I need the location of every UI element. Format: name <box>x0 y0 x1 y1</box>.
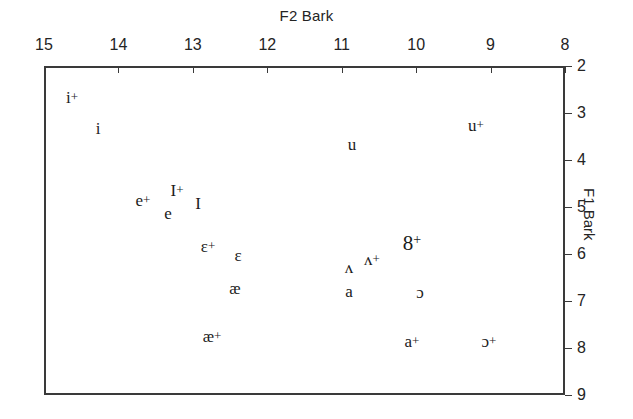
vowel-plus-marker: + <box>489 333 496 348</box>
vowel-point: a <box>345 283 353 300</box>
vowel-point: ɛ <box>234 247 241 264</box>
vowel-symbol: ɔ <box>416 283 424 302</box>
y-tick <box>565 395 572 396</box>
y-tick-label: 3 <box>577 103 586 123</box>
y-tick-label: 6 <box>577 244 586 264</box>
vowel-plus-marker: + <box>143 192 150 207</box>
vowel-point: i+ <box>66 89 78 106</box>
vowel-point: e <box>164 205 172 222</box>
x-tick-label: 14 <box>98 36 138 54</box>
y-tick <box>565 254 572 255</box>
vowel-symbol: ɛ <box>234 246 241 265</box>
y-axis-title: F1 Bark <box>581 188 598 241</box>
y-tick <box>565 207 572 208</box>
vowel-point: a+ <box>405 333 420 350</box>
vowel-point: ɔ <box>416 284 424 301</box>
x-tick-label: 10 <box>396 36 436 54</box>
x-tick-label: 12 <box>247 36 287 54</box>
x-tick-label: 8 <box>545 36 585 54</box>
vowel-symbol: ʌ <box>345 258 354 277</box>
vowel-symbol: æ <box>203 327 214 346</box>
vowel-symbol: e <box>164 204 172 223</box>
vowel-symbol: u <box>468 116 477 135</box>
x-tick <box>342 66 343 73</box>
vowel-point: ɛ+ <box>201 238 215 255</box>
y-tick-label: 7 <box>577 291 586 311</box>
vowel-plus-marker: + <box>413 232 421 247</box>
vowel-point: i <box>96 120 101 137</box>
y-axis-title-text: F1 Bark <box>581 188 598 241</box>
vowel-point: æ+ <box>203 328 222 345</box>
vowel-symbol: e <box>136 191 144 210</box>
chart-title: F2 Bark <box>0 7 633 24</box>
chart-title-text: F2 Bark <box>280 7 334 24</box>
vowel-symbol: æ <box>229 279 240 298</box>
vowel-symbol: ɔ <box>482 332 490 351</box>
y-tick-label: 9 <box>577 385 586 405</box>
vowel-symbol: i <box>96 119 101 138</box>
x-tick-label: 9 <box>471 36 511 54</box>
vowel-point: æ <box>229 280 240 297</box>
x-tick <box>565 66 566 73</box>
y-tick-label: 2 <box>577 56 586 76</box>
vowel-symbol: a <box>405 332 413 351</box>
vowel-plus-marker: + <box>71 89 78 104</box>
y-tick <box>565 160 572 161</box>
vowel-point: ʌ <box>345 259 354 276</box>
y-tick <box>565 66 572 67</box>
vowel-plus-marker: + <box>208 238 215 253</box>
x-tick <box>118 66 119 73</box>
vowel-symbol: 8 <box>403 231 414 255</box>
vowel-plus-marker: + <box>176 182 183 197</box>
x-tick-label: 15 <box>24 36 64 54</box>
y-tick-label: 4 <box>577 150 586 170</box>
y-tick <box>565 113 572 114</box>
x-tick-label: 11 <box>322 36 362 54</box>
vowel-plus-marker: + <box>373 251 380 266</box>
vowel-point: ʌ+ <box>364 251 380 268</box>
vowel-symbol: ʌ <box>364 250 373 269</box>
x-tick <box>491 66 492 73</box>
vowel-point: 8+ <box>403 233 421 254</box>
x-tick <box>44 66 45 73</box>
vowel-point: ɔ+ <box>482 333 497 350</box>
x-tick <box>267 66 268 73</box>
vowel-plus-marker: + <box>412 333 419 348</box>
vowel-point: I <box>195 195 201 212</box>
y-tick <box>565 301 572 302</box>
y-tick-label: 8 <box>577 338 586 358</box>
vowel-point: u+ <box>468 117 484 134</box>
vowel-formant-chart: F2 Bark 15141312111098 23456789 F1 Bark … <box>0 0 633 419</box>
vowel-point: e+ <box>136 192 151 209</box>
x-tick-label: 13 <box>173 36 213 54</box>
x-tick <box>416 66 417 73</box>
vowel-point: u <box>348 136 357 153</box>
vowel-plus-marker: + <box>477 117 484 132</box>
y-tick <box>565 348 572 349</box>
vowel-symbol: a <box>345 282 353 301</box>
vowel-symbol: u <box>348 135 357 154</box>
x-tick <box>193 66 194 73</box>
vowel-point: I+ <box>170 182 183 199</box>
vowel-plus-marker: + <box>214 328 221 343</box>
vowel-symbol: I <box>195 194 201 213</box>
